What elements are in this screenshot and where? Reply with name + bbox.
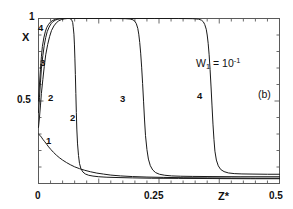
x-tick-label-0.25: 0.25 [144, 190, 163, 201]
w1-equals-ten: = 10 [210, 57, 234, 69]
curve-label-3-right: 3 [120, 93, 125, 104]
x-axis-label: Z* [218, 190, 229, 202]
panel-label: (b) [258, 88, 271, 100]
curve-label-4-right: 4 [197, 90, 202, 101]
curve-label-1-left: 1 [46, 135, 51, 146]
x-tick-label-0: 0 [35, 190, 41, 201]
chart-canvas [0, 0, 293, 209]
w1-base: W [196, 57, 206, 69]
curve-2 [39, 19, 280, 179]
w1-exponent: -1 [234, 56, 241, 65]
curve-label-3-left: 3 [40, 57, 45, 68]
figure-container: X Z* 1 0.5 0 0.25 0.5 W1 = 10-1 (b) 4 3 … [0, 0, 293, 209]
curve-label-2-right: 2 [70, 112, 75, 123]
curve-label-2-left: 2 [48, 92, 53, 103]
curve-1 [39, 134, 280, 178]
parameter-annotation: W1 = 10-1 [196, 56, 240, 71]
y-tick-label-0.5: 0.5 [17, 94, 31, 105]
data-curves [39, 19, 280, 179]
y-axis-label: X [22, 31, 29, 43]
x-tick-label-0.5: 0.5 [269, 190, 283, 201]
curve-label-4-left: 4 [38, 22, 43, 33]
y-tick-label-1: 1 [29, 11, 35, 22]
